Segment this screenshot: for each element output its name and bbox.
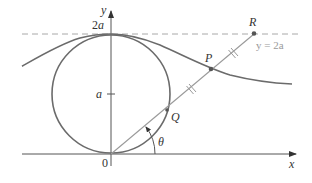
- point-label-P: P: [204, 51, 213, 65]
- y-tick-label-2a: 2a: [92, 18, 104, 32]
- dashed-line-label: y = 2a: [256, 39, 284, 51]
- point-label-R: R: [248, 15, 257, 29]
- point-label-Q: Q: [171, 110, 180, 124]
- two-a-label-a: a: [98, 18, 104, 32]
- point-R: [252, 31, 257, 36]
- ray-origin-to-R: [111, 34, 254, 154]
- witch-of-agnesi-diagram: y x 0 a 2a R P Q θ y = 2a: [0, 0, 312, 183]
- point-P: [209, 67, 214, 72]
- x-axis-label: x: [288, 157, 295, 171]
- witch-curve: [22, 34, 292, 84]
- angle-label-theta: θ: [158, 135, 164, 149]
- y-axis-label: y: [100, 3, 107, 17]
- origin-label: 0: [102, 156, 108, 170]
- point-Q: [165, 108, 169, 112]
- y-tick-label-a: a: [96, 87, 102, 101]
